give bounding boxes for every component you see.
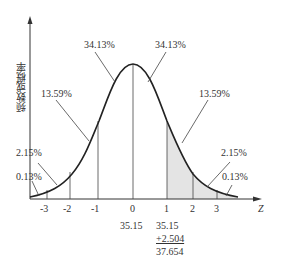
- tick-label: -2: [63, 204, 71, 214]
- tick-label: -3: [40, 204, 48, 214]
- mean-value: 35.15: [120, 221, 143, 231]
- y-axis-arrow-icon: [28, 16, 33, 24]
- leader-lines: [32, 52, 232, 196]
- calc-line-1: 35.15: [156, 221, 179, 231]
- tick-label: 1: [164, 204, 169, 214]
- x-axis-arrow-icon: [253, 197, 262, 202]
- calc-result: 37.654: [156, 247, 184, 257]
- tick-label: -1: [91, 204, 99, 214]
- pct-label-right-0: 0.13%: [222, 172, 248, 182]
- z-axis-label: Z: [258, 204, 264, 214]
- pct-label-left-34: 34.13%: [84, 40, 115, 50]
- pct-label-left-13: 13.59%: [41, 89, 72, 99]
- y-axis-label: 频数或概率: [14, 62, 29, 112]
- pct-label-right-2: 2.15%: [221, 148, 247, 158]
- pct-label-left-2: 2.15%: [16, 148, 42, 158]
- calc-line-2: +2.504: [156, 234, 184, 244]
- tick-label: 2: [190, 204, 195, 214]
- pct-label-left-0: 0.13%: [16, 172, 42, 182]
- pct-label-right-13: 13.59%: [199, 89, 230, 99]
- shaded-area: [167, 121, 238, 199]
- tick-label: 3: [214, 204, 219, 214]
- bell-curve: [30, 64, 238, 197]
- pct-label-right-34: 34.13%: [155, 40, 186, 50]
- tick-label: 0: [130, 204, 135, 214]
